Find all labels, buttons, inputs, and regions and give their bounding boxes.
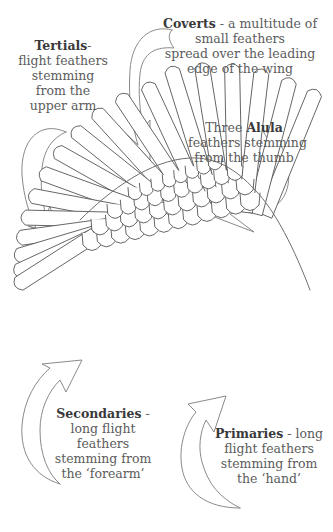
coverts-text-1: small feathers: [160, 31, 320, 46]
secondaries-text-4: the ‘forearm’: [54, 466, 152, 481]
alula-text-0: feathers stemming: [188, 135, 300, 150]
alula-term: Alula: [246, 120, 282, 135]
primaries-text-1: flight feathers: [214, 441, 324, 456]
tertials-term: Tertials: [34, 38, 87, 53]
primaries-text-2: stemming from: [214, 456, 324, 471]
alula-label: Three Alula feathers stemming from the t…: [188, 120, 300, 165]
primaries-text-0: - long: [283, 426, 323, 441]
secondaries-text-0: -: [141, 406, 149, 421]
tertials-text-2: stemming: [8, 68, 118, 83]
coverts-text-3: edge of the wing: [160, 61, 320, 76]
primaries-label: Primaries - long flight feathers stemmin…: [214, 426, 324, 486]
tertials-text-0: -: [87, 38, 91, 53]
tertials-text-4: upper arm: [8, 98, 118, 113]
secondaries-term: Secondaries: [56, 406, 141, 421]
primaries-term: Primaries: [215, 426, 283, 441]
coverts-term: Coverts: [163, 16, 216, 31]
tertials-label: Tertials- flight feathers stemming from …: [8, 38, 118, 113]
secondaries-text-2: feathers: [54, 436, 152, 451]
tertials-text-1: flight feathers: [8, 53, 118, 68]
secondaries-text-3: stemming from: [54, 451, 152, 466]
alula-prefix: Three: [205, 120, 246, 135]
coverts-text-0: - a multitude of: [216, 16, 317, 31]
tertials-text-3: from the: [8, 83, 118, 98]
primaries-text-3: the ‘hand’: [214, 471, 324, 486]
alula-text-1: from the thumb: [188, 150, 300, 165]
coverts-label: Coverts - a multitude of small feathers …: [160, 16, 320, 76]
secondaries-label: Secondaries - long flight feathers stemm…: [54, 406, 152, 481]
coverts-text-2: spread over the leading: [160, 46, 320, 61]
secondaries-text-1: long flight: [54, 421, 152, 436]
